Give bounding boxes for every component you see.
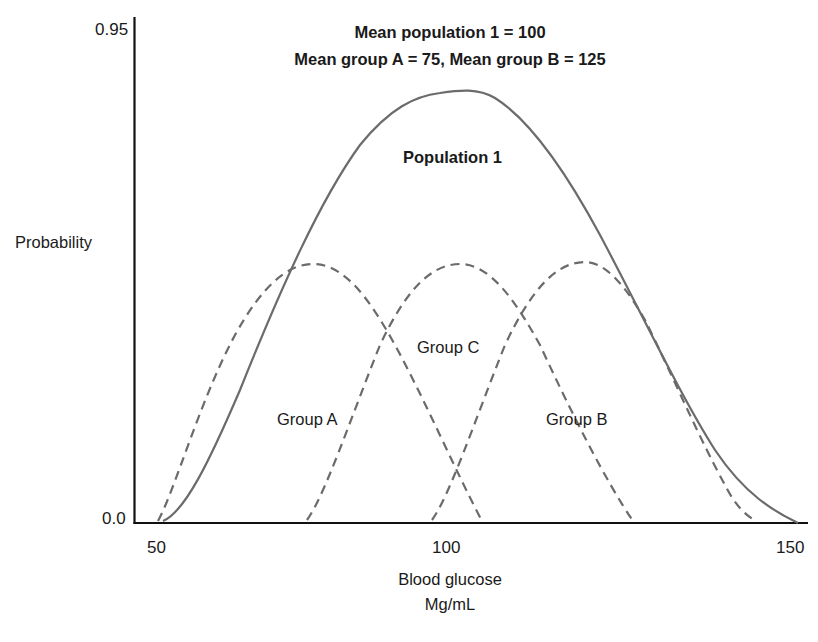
group-b-label: Group B bbox=[546, 410, 607, 429]
chart-canvas bbox=[0, 0, 818, 642]
x-tick-150: 150 bbox=[776, 538, 804, 558]
population-1-label: Population 1 bbox=[403, 148, 502, 167]
chart-subtitle: Mean group A = 75, Mean group B = 125 bbox=[0, 50, 818, 69]
x-tick-50: 50 bbox=[147, 538, 166, 558]
x-axis-unit: Mg/mL bbox=[350, 595, 550, 614]
group-c-label: Group C bbox=[417, 338, 479, 357]
x-tick-100: 100 bbox=[432, 538, 460, 558]
group-c-curve bbox=[307, 264, 633, 521]
y-axis-title: Probability bbox=[15, 233, 92, 252]
y-tick-top: 0.95 bbox=[95, 20, 128, 40]
x-axis-title: Blood glucose bbox=[350, 570, 550, 589]
group-b-curve bbox=[432, 262, 756, 521]
group-a-curve bbox=[158, 264, 482, 521]
group-a-label: Group A bbox=[277, 410, 338, 429]
probability-distribution-chart: Mean population 1 = 100 Mean group A = 7… bbox=[0, 0, 818, 642]
y-tick-bottom: 0.0 bbox=[102, 509, 126, 529]
